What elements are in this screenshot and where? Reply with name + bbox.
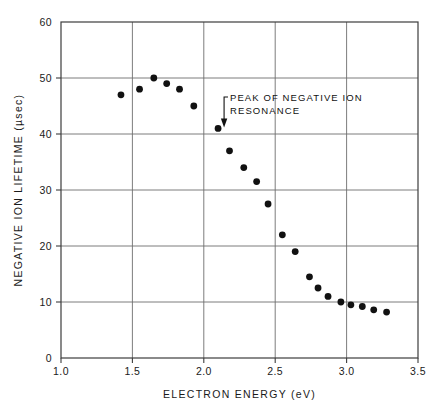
data-point (306, 273, 313, 280)
chart-figure: 1.01.52.02.53.03.5 0102030405060 PEAK OF… (0, 0, 432, 414)
x-tick-label: 3.0 (339, 365, 355, 377)
x-axis-tick-labels: 1.01.52.02.53.03.5 (53, 365, 426, 377)
data-point (118, 91, 125, 98)
data-point (253, 178, 260, 185)
data-point (136, 86, 143, 93)
y-axis-tick-labels: 0102030405060 (40, 16, 52, 364)
peak-annotation: PEAK OF NEGATIVE ION RESONANCE (221, 92, 363, 127)
y-tick-label: 50 (40, 72, 52, 84)
y-tick-label: 20 (40, 240, 52, 252)
data-point (176, 86, 183, 93)
data-point (325, 293, 332, 300)
scatter-plot: 1.01.52.02.53.03.5 0102030405060 PEAK OF… (0, 0, 432, 414)
y-tick-label: 30 (40, 184, 52, 196)
data-point (265, 201, 272, 208)
data-point (150, 75, 157, 82)
y-tick-label: 60 (40, 16, 52, 28)
data-point (292, 248, 299, 255)
data-point (226, 147, 233, 154)
y-tick-label: 10 (40, 296, 52, 308)
data-point (370, 306, 377, 313)
x-tick-label: 1.0 (53, 365, 69, 377)
data-point (383, 309, 390, 316)
data-point (279, 231, 286, 238)
x-tick-label: 2.0 (196, 365, 212, 377)
y-tick-label: 0 (46, 352, 52, 364)
x-tick-label: 3.5 (410, 365, 426, 377)
data-point (359, 303, 366, 310)
data-point (190, 103, 197, 110)
data-point (163, 80, 170, 87)
data-point (337, 299, 344, 306)
y-axis-ticks (56, 78, 61, 302)
x-axis-title: ELECTRON ENERGY (eV) (163, 388, 316, 400)
x-tick-label: 2.5 (267, 365, 283, 377)
data-point (315, 285, 322, 292)
data-point (215, 125, 222, 132)
annotation-line-2: RESONANCE (230, 105, 300, 116)
x-tick-label: 1.5 (125, 365, 141, 377)
x-axis-ticks (61, 358, 418, 363)
data-point (240, 164, 247, 171)
annotation-line-1: PEAK OF NEGATIVE ION (230, 92, 363, 103)
y-axis-title: NEGATIVE ION LIFETIME (µsec) (12, 94, 24, 287)
data-point (347, 301, 354, 308)
y-tick-label: 40 (40, 128, 52, 140)
